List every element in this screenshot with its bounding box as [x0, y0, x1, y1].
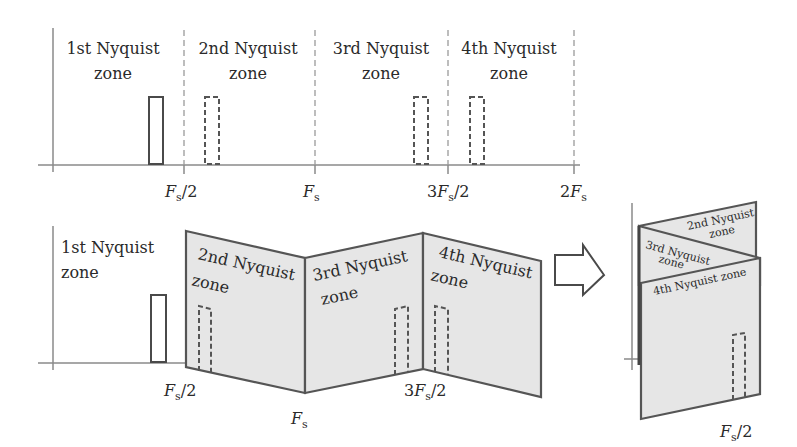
top-label-3fs2: 3Fs/2 — [427, 182, 470, 204]
original-signal-bar — [149, 97, 163, 164]
right-arrow-icon — [555, 245, 604, 295]
top-zone1-label: 1st Nyquist — [66, 39, 160, 58]
top-zone4-label: 4th Nyquist — [461, 39, 557, 58]
top-zone4-label2: zone — [490, 64, 528, 83]
top-label-fs2: Fs/2 — [164, 182, 197, 204]
top-diagram: 1st Nyquist zone 2nd Nyquist zone 3rd Ny… — [38, 28, 587, 204]
nyquist-zones-figure: 1st Nyquist zone 2nd Nyquist zone 3rd Ny… — [0, 0, 797, 447]
folded-label-fs: Fs — [290, 409, 308, 431]
top-zone1-label2: zone — [94, 64, 132, 83]
folded-original-signal-bar — [151, 295, 166, 362]
stacked-label-fs2: Fs/2 — [719, 422, 752, 444]
top-zone3-label2: zone — [362, 64, 400, 83]
top-label-fs: Fs — [302, 182, 320, 204]
folded-zone1-label2: zone — [61, 263, 99, 282]
alias-bar-zone3 — [414, 97, 428, 164]
alias-bar-zone2 — [205, 97, 219, 164]
folded-label-3fs2: 3Fs/2 — [404, 381, 447, 403]
stacked-diagram: 2nd Nyquist zone 3rd Nyquist zone 4th Ny… — [624, 202, 760, 444]
folded-diagram: 1st Nyquist zone 2nd Nyquist zone 3rd Ny… — [38, 226, 541, 431]
folded-zone1-label: 1st Nyquist — [61, 238, 155, 257]
top-zone3-label: 3rd Nyquist — [333, 39, 430, 58]
folded-label-fs2: Fs/2 — [163, 381, 196, 403]
alias-bar-zone4 — [470, 97, 484, 164]
top-zone2-label2: zone — [229, 64, 267, 83]
top-zone2-label: 2nd Nyquist — [198, 39, 298, 58]
top-label-2fs: 2Fs — [560, 182, 587, 204]
